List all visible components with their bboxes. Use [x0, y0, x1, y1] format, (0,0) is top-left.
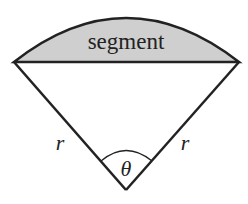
radius-right-line	[126, 62, 239, 190]
radius-right-label: r	[181, 130, 190, 155]
segment-label: segment	[88, 29, 165, 54]
radius-left-label: r	[56, 130, 65, 155]
angle-label: θ	[121, 156, 132, 181]
radius-left-line	[14, 62, 126, 190]
circular-segment-diagram: segment r r θ	[0, 0, 248, 204]
